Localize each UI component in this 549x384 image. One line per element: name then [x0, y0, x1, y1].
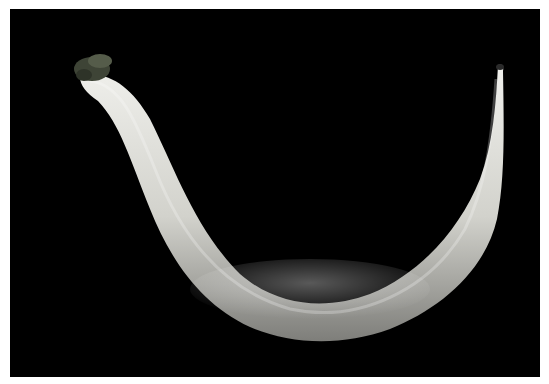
photo — [10, 9, 540, 377]
specimen-illustration — [10, 9, 540, 377]
image-frame — [0, 0, 549, 384]
specimen-tail-tip — [496, 64, 504, 70]
specimen-sheen — [190, 259, 430, 319]
